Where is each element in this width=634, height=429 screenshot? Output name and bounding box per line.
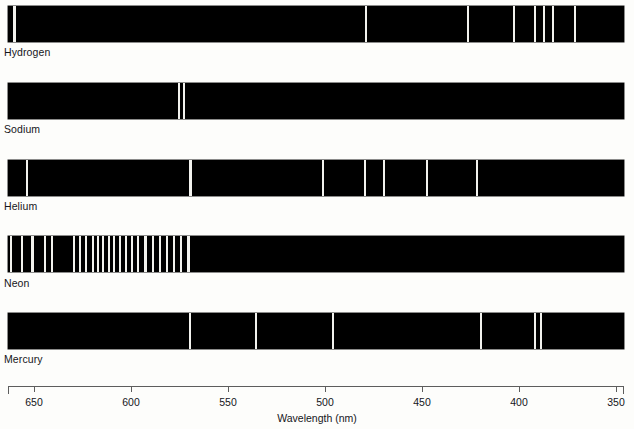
emission-line	[552, 6, 554, 42]
element-label-sodium: Sodium	[4, 123, 40, 135]
axis-tick	[616, 386, 617, 392]
emission-line	[125, 236, 127, 272]
axis-tick-label: 550	[219, 396, 237, 408]
axis-tick	[519, 386, 520, 392]
spectrum-band-mercury	[8, 313, 624, 349]
emission-line	[534, 313, 536, 349]
emission-line	[92, 236, 94, 272]
emission-line	[119, 236, 121, 272]
emission-spectra-figure: HydrogenSodiumHeliumNeonMercury 65060055…	[0, 0, 634, 429]
emission-line	[426, 160, 428, 196]
emission-line	[137, 236, 139, 272]
wavelength-axis: 650600550500450400350 Wavelength (nm)	[0, 386, 634, 429]
emission-line	[21, 236, 23, 272]
axis-tick-label: 600	[122, 396, 140, 408]
emission-line	[467, 6, 469, 42]
emission-line	[79, 236, 81, 272]
emission-line	[513, 6, 515, 42]
emission-line	[97, 236, 99, 272]
emission-line	[102, 236, 104, 272]
emission-line	[159, 236, 161, 272]
emission-line	[480, 313, 482, 349]
emission-line	[365, 6, 367, 42]
emission-line	[26, 160, 28, 196]
emission-line	[255, 313, 257, 349]
emission-line	[332, 313, 334, 349]
axis-tick	[422, 386, 423, 392]
emission-line	[534, 6, 536, 42]
emission-line	[187, 236, 190, 272]
emission-line	[178, 83, 180, 119]
emission-line	[189, 160, 192, 196]
emission-line	[543, 6, 545, 42]
element-label-helium: Helium	[4, 200, 37, 212]
axis-tick	[325, 386, 326, 392]
emission-line	[322, 160, 324, 196]
element-label-hydrogen: Hydrogen	[4, 46, 50, 58]
spectrum-band-neon	[8, 236, 624, 272]
emission-line	[113, 236, 115, 272]
axis-tick-label: 400	[510, 396, 528, 408]
spectrum-band-sodium	[8, 83, 624, 119]
axis-tick	[228, 386, 229, 392]
emission-line	[31, 236, 34, 272]
axis-line	[8, 386, 624, 387]
emission-line	[152, 236, 154, 272]
emission-line	[476, 160, 478, 196]
axis-tick-label: 350	[607, 396, 625, 408]
emission-line	[383, 160, 385, 196]
emission-line	[44, 236, 46, 272]
axis-tick-label: 650	[25, 396, 43, 408]
axis-title: Wavelength (nm)	[0, 412, 634, 424]
emission-line	[364, 160, 366, 196]
emission-line	[574, 6, 576, 42]
emission-line	[183, 83, 185, 119]
emission-line	[73, 236, 75, 272]
spectrum-band-helium	[8, 160, 624, 196]
axis-tick	[34, 386, 35, 392]
emission-line	[51, 236, 53, 272]
axis-tick	[131, 386, 132, 392]
emission-line	[144, 236, 147, 272]
emission-line	[540, 313, 542, 349]
element-label-neon: Neon	[4, 277, 30, 289]
axis-cap-right	[623, 386, 624, 394]
emission-line	[180, 236, 182, 272]
emission-line	[189, 313, 191, 349]
axis-cap-left	[8, 386, 9, 394]
emission-line	[85, 236, 87, 272]
emission-line	[173, 236, 175, 272]
axis-tick-label: 500	[316, 396, 334, 408]
emission-line	[13, 6, 16, 42]
emission-line	[108, 236, 110, 272]
axis-tick-label: 450	[413, 396, 431, 408]
emission-line	[131, 236, 133, 272]
spectrum-band-hydrogen	[8, 6, 624, 42]
emission-line	[166, 236, 168, 272]
element-label-mercury: Mercury	[4, 353, 43, 365]
emission-line	[10, 236, 12, 272]
